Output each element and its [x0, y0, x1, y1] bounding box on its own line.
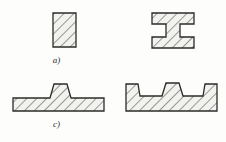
figure-part-c: c): [0, 76, 113, 142]
figure-canvas: a) b): [0, 0, 226, 142]
figure-part-a: a): [0, 4, 113, 72]
shape-d-hatch: [126, 83, 217, 111]
rectangular-bar-section-svg: [0, 4, 113, 54]
figure-part-b: b): [113, 4, 226, 72]
shape-b-hatch: [152, 13, 194, 48]
i-beam-section-svg: [113, 4, 226, 54]
figure-label-a: a): [0, 55, 113, 65]
channel-tray-with-central-rib-section-svg: [113, 76, 226, 118]
shape-a-hatch: [53, 13, 76, 47]
figure-part-d: d): [113, 76, 226, 142]
flat-plate-with-central-rib-section-svg: [0, 76, 113, 118]
figure-label-c: c): [0, 119, 113, 129]
